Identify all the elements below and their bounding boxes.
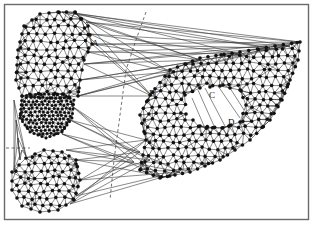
label-d: D: [228, 117, 235, 127]
label-a: A: [92, 38, 99, 48]
label-c: C: [209, 90, 215, 100]
label-b: B: [149, 88, 155, 98]
mesh-diagram: A B C D: [0, 0, 314, 227]
